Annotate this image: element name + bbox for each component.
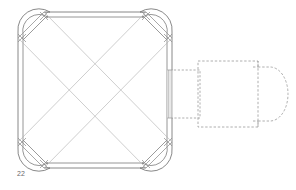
square-body-inner-wall xyxy=(23,17,167,163)
annex-large-dashed xyxy=(198,61,258,127)
figure-number-label: 22 xyxy=(17,170,25,178)
architectural-plan-svg xyxy=(0,0,296,190)
drawing-canvas: 22 xyxy=(0,0,296,190)
annex-small-dashed xyxy=(170,70,200,118)
right-wall-opening xyxy=(167,70,172,118)
